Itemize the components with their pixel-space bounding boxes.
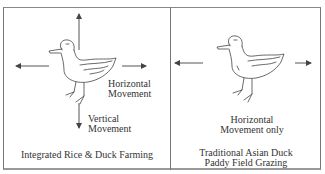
duck-icon xyxy=(171,8,321,170)
horizontal-movement-label: Horizontal Movement xyxy=(108,79,151,99)
vertical-movement-label: Vertical Movement xyxy=(88,114,131,134)
panel-caption-traditional: Traditional Asian Duck Paddy Field Grazi… xyxy=(171,148,321,168)
horizontal-only-label: Horizontal Movement only xyxy=(207,115,297,135)
vertical-label-line2: Movement xyxy=(88,124,131,134)
horizontal-only-line2: Movement only xyxy=(207,125,297,135)
panel-caption-integrated: Integrated Rice & Duck Farming xyxy=(4,150,170,160)
panel-integrated-rice-duck: Horizontal Movement Vertical Movement In… xyxy=(4,8,170,170)
panel-traditional-grazing: Horizontal Movement only Traditional Asi… xyxy=(171,8,321,170)
horizontal-label-line2: Movement xyxy=(108,89,151,99)
caption-line2: Paddy Field Grazing xyxy=(171,158,321,168)
